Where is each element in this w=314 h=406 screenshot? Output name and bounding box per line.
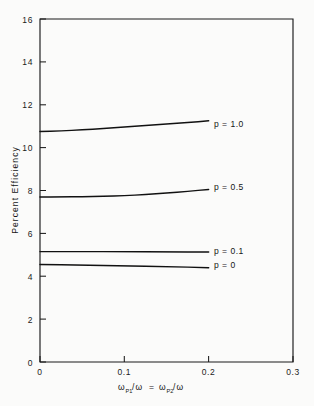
y-tick-label-12: 12 <box>22 100 33 110</box>
x-axis-title: ω P1 /ω = ω P2 /ω <box>118 382 184 394</box>
y-tick-label-14: 14 <box>22 57 33 67</box>
series-label-p-1-0: p = 1.0 <box>214 119 244 129</box>
y-tick-label-4: 4 <box>28 272 33 282</box>
x-tick-label-0-3: 0.3 <box>286 367 300 377</box>
percent-efficiency-line-chart: 16 14 12 10 8 6 4 2 0 0 0.1 0.2 0.3 Perc… <box>0 0 314 406</box>
series-label-p-0-5: p = 0.5 <box>214 182 244 192</box>
x-tick-label-0-2: 0.2 <box>202 367 216 377</box>
x-tick-label-0-1: 0.1 <box>117 367 131 377</box>
series-label-p-0-1: p = 0.1 <box>214 246 244 256</box>
y-tick-label-0: 0 <box>28 358 33 368</box>
x-axis-title-equals: = <box>149 382 155 392</box>
curve-p-0 <box>40 264 209 267</box>
series-label-p-0: p = 0 <box>214 260 236 270</box>
y-tick-label-8: 8 <box>28 186 33 196</box>
chart-page: 16 14 12 10 8 6 4 2 0 0 0.1 0.2 0.3 Perc… <box>0 0 314 406</box>
y-axis-title: Percent Efficiency <box>10 146 20 234</box>
data-series-group <box>40 121 209 268</box>
x-axis-tick-labels: 0 0.1 0.2 0.3 <box>37 367 299 377</box>
curve-p-0-5 <box>40 189 209 197</box>
y-axis-title-text: Percent Efficiency <box>10 146 20 234</box>
y-tick-label-10: 10 <box>22 143 33 153</box>
plot-frame <box>40 19 293 362</box>
y-tick-label-16: 16 <box>22 15 33 25</box>
y-axis-tick-marks <box>40 19 46 362</box>
y-axis-tick-labels: 16 14 12 10 8 6 4 2 0 <box>22 15 33 368</box>
x-axis-title-slash-omega-1: /ω <box>132 382 143 392</box>
series-labels-group: p = 1.0 p = 0.5 p = 0.1 p = 0 <box>214 119 244 270</box>
x-axis-title-slash-omega-2: /ω <box>173 382 184 392</box>
y-tick-label-2: 2 <box>28 315 33 325</box>
curve-p-1-0 <box>40 121 209 132</box>
x-axis-tick-marks <box>40 356 293 362</box>
x-tick-label-0: 0 <box>37 367 42 377</box>
y-tick-label-6: 6 <box>28 229 33 239</box>
